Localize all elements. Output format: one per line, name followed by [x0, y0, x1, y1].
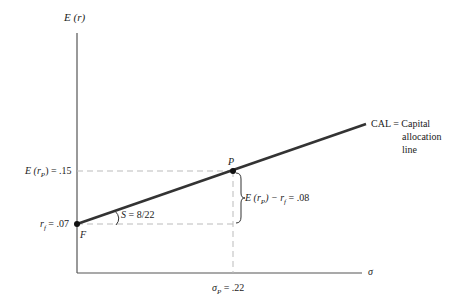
x-axis-label: σ	[368, 267, 373, 277]
excess-brace	[236, 173, 245, 223]
cal-label-line3: line	[402, 145, 417, 155]
y-axis-label: E (r)	[64, 12, 85, 23]
rf-label: rf = .07	[40, 219, 69, 232]
cal-label-line1: CAL = Capital	[371, 119, 430, 129]
erp-label: E (rP) = .15	[25, 166, 72, 179]
point-p	[230, 168, 236, 174]
point-f	[74, 221, 80, 227]
sigma-p-label: σP = .22	[212, 283, 244, 296]
erp-prefix: E (r	[25, 165, 41, 176]
slope-label: S = 8/22	[121, 210, 154, 220]
erp-suffix: ) = .15	[45, 165, 71, 176]
excess-mid: ) − r	[265, 192, 284, 203]
rf-suffix: = .07	[46, 218, 69, 229]
sigma-suffix: = .22	[221, 282, 244, 293]
excess-return-label: E (rP) − rf = .08	[245, 193, 309, 206]
slope-arc	[115, 211, 119, 225]
point-f-label: F	[80, 230, 86, 240]
chart-canvas	[0, 0, 468, 303]
point-p-label: P	[228, 157, 234, 167]
slope-value: = 8/22	[126, 209, 154, 220]
cal-label-line2: allocation	[402, 132, 441, 142]
excess-prefix: E (r	[245, 192, 261, 203]
excess-suffix: = .08	[286, 192, 309, 203]
